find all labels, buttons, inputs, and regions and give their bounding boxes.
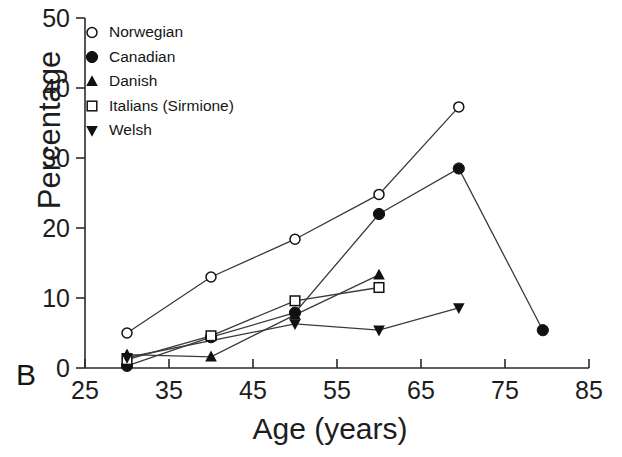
legend-marker-norwegian [87, 28, 97, 38]
chart-canvas: 01020304050 25354555657585 NorwegianCana… [0, 0, 622, 457]
marker-norwegian [290, 234, 300, 244]
legend-label: Norwegian [109, 23, 183, 40]
marker-canadian [537, 325, 548, 336]
x-tick-label: 45 [239, 376, 267, 404]
y-tick-label: 0 [56, 354, 70, 382]
marker-italians-sirmione [206, 331, 216, 341]
x-tick-label: 35 [155, 376, 183, 404]
chart-legend: NorwegianCanadianDanishItalians (Sirmion… [86, 23, 234, 138]
x-axis: 25354555657585 [71, 359, 603, 404]
legend-marker-welsh [86, 126, 98, 137]
legend-marker-italians-sirmione [87, 101, 97, 111]
legend-marker-canadian [86, 51, 97, 62]
y-tick-label: 40 [42, 74, 70, 102]
y-axis: 01020304050 [42, 4, 85, 382]
legend-label: Danish [109, 72, 157, 89]
marker-norwegian [454, 102, 464, 112]
series-line-danish [127, 275, 379, 357]
marker-norwegian [374, 189, 384, 199]
series-lines [127, 107, 543, 366]
legend-label: Canadian [109, 48, 175, 65]
marker-danish [205, 351, 217, 362]
legend-label: Welsh [109, 121, 152, 138]
marker-canadian [373, 208, 384, 219]
figure-panel-b: Percentage Age (years) B 01020304050 253… [0, 0, 622, 457]
legend-label: Italians (Sirmione) [109, 97, 234, 114]
series-line-canadian [127, 169, 543, 366]
series-line-italians-sirmione [127, 288, 379, 360]
x-tick-label: 75 [491, 376, 519, 404]
y-tick-label: 10 [42, 284, 70, 312]
x-tick-label: 55 [323, 376, 351, 404]
x-tick-label: 25 [71, 376, 99, 404]
x-tick-label: 65 [407, 376, 435, 404]
y-tick-label: 50 [42, 4, 70, 32]
series-markers [121, 102, 548, 372]
marker-norwegian [122, 328, 132, 338]
marker-canadian [453, 163, 464, 174]
legend-marker-danish [86, 75, 98, 86]
y-tick-label: 20 [42, 214, 70, 242]
x-tick-label: 85 [575, 376, 603, 404]
marker-italians-sirmione [374, 283, 384, 293]
marker-norwegian [206, 272, 216, 282]
marker-welsh [373, 326, 385, 337]
y-tick-label: 30 [42, 144, 70, 172]
marker-italians-sirmione [290, 296, 300, 306]
marker-danish [373, 269, 385, 280]
